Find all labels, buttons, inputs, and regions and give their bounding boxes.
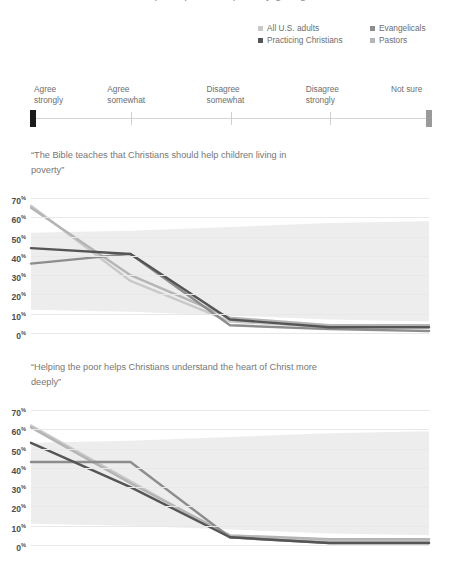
gridline xyxy=(31,429,429,430)
y-tick-label: 70% xyxy=(11,194,26,205)
scale-label-4: Not sure xyxy=(391,84,422,95)
legend-swatch-evangelicals xyxy=(370,26,375,31)
y-tick-label: 60% xyxy=(11,425,26,436)
gridline xyxy=(31,449,429,450)
gridline xyxy=(31,487,429,488)
chart-title: “Helping the poor helps Christians under… xyxy=(31,360,321,390)
gridline xyxy=(31,294,429,295)
legend-item-practicing-christians[interactable]: Practicing Christians xyxy=(258,34,370,46)
y-tick-label: 20% xyxy=(11,502,26,513)
scale-label-3: Disagreestrongly xyxy=(306,84,339,106)
gridline xyxy=(31,237,429,238)
scale-label-0: Agreestrongly xyxy=(34,84,63,106)
gridline xyxy=(31,333,429,334)
gridline xyxy=(31,545,429,546)
y-axis: 70%60%50%40%30%20%10%0% xyxy=(0,198,28,333)
page-title: perceptions of poverty giving xyxy=(0,0,461,1)
legend-swatch-practicing-christians xyxy=(258,38,263,43)
scale-cap-left xyxy=(30,110,36,127)
range-band xyxy=(31,431,429,535)
y-tick-label: 30% xyxy=(11,483,26,494)
scale-label-2: Disagreesomewhat xyxy=(207,84,245,106)
legend-label-all-us-adults: All U.S. adults xyxy=(267,22,319,34)
y-tick-label: 40% xyxy=(11,252,26,263)
legend-item-pastors[interactable]: Pastors xyxy=(370,34,461,46)
legend-label-practicing-christians: Practicing Christians xyxy=(267,34,343,46)
chart-title: “The Bible teaches that Christians shoul… xyxy=(31,148,321,178)
scale-label-row: AgreestronglyAgreesomewhatDisagreesomewh… xyxy=(0,82,461,110)
gridline xyxy=(31,526,429,527)
y-tick-label: 0% xyxy=(16,329,26,340)
y-tick-label: 60% xyxy=(11,213,26,224)
legend-item-evangelicals[interactable]: Evangelicals xyxy=(370,22,461,34)
scale-tick-2 xyxy=(231,112,232,125)
legend-swatch-all-us-adults xyxy=(258,26,263,31)
cut-off-title-strip: perceptions of poverty giving xyxy=(0,0,461,9)
plot-area xyxy=(31,198,429,333)
y-tick-label: 30% xyxy=(11,271,26,282)
legend-label-evangelicals: Evangelicals xyxy=(379,22,426,34)
y-tick-label: 20% xyxy=(11,290,26,301)
legend: All U.S. adults Evangelicals Practicing … xyxy=(258,22,461,46)
y-axis: 70%60%50%40%30%20%10%0% xyxy=(0,410,28,545)
legend-swatch-pastors xyxy=(370,38,375,43)
y-tick-label: 0% xyxy=(16,541,26,552)
scale-tick-1 xyxy=(131,112,132,125)
gridline xyxy=(31,468,429,469)
legend-item-all-us-adults[interactable]: All U.S. adults xyxy=(258,22,370,34)
legend-label-pastors: Pastors xyxy=(379,34,407,46)
scale-tick-3 xyxy=(330,112,331,125)
gridline xyxy=(31,506,429,507)
y-tick-label: 50% xyxy=(11,445,26,456)
y-tick-label: 50% xyxy=(11,233,26,244)
y-tick-label: 70% xyxy=(11,406,26,417)
scale-label-1: Agreesomewhat xyxy=(107,84,145,106)
y-tick-label: 10% xyxy=(11,522,26,533)
gridline xyxy=(31,198,429,199)
gridline xyxy=(31,256,429,257)
response-scale: AgreestronglyAgreesomewhatDisagreesomewh… xyxy=(0,82,461,132)
plot-area xyxy=(31,410,429,545)
gridline xyxy=(31,217,429,218)
scale-cap-right xyxy=(426,110,432,127)
gridline xyxy=(31,410,429,411)
gridline xyxy=(31,314,429,315)
y-tick-label: 10% xyxy=(11,310,26,321)
gridline xyxy=(31,275,429,276)
scale-track xyxy=(32,118,429,119)
y-tick-label: 40% xyxy=(11,464,26,475)
